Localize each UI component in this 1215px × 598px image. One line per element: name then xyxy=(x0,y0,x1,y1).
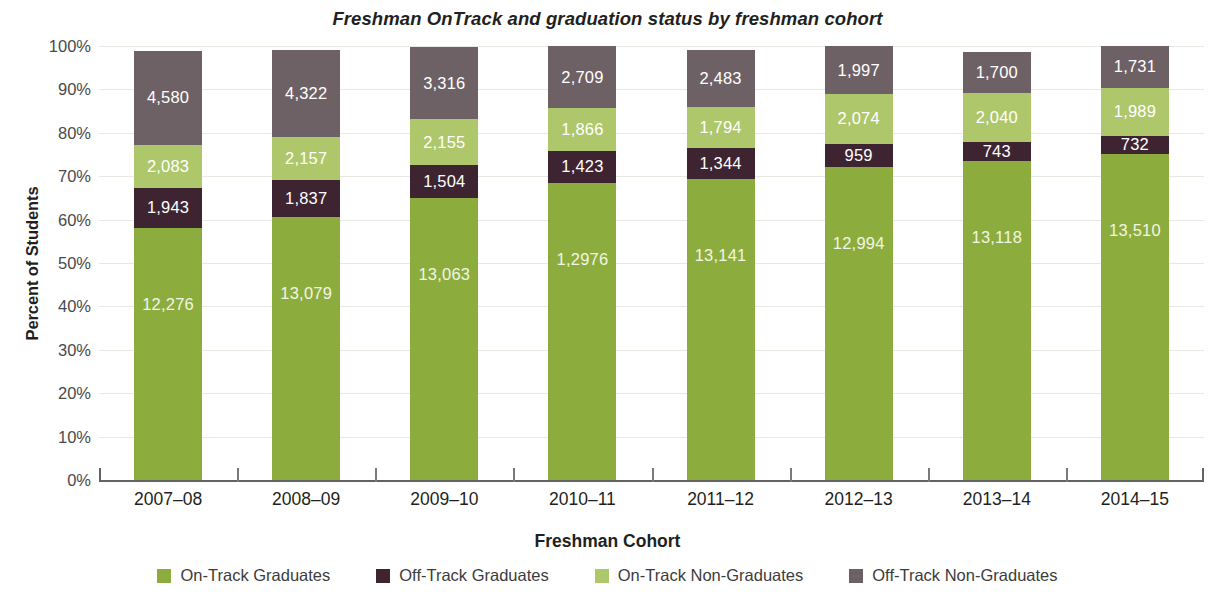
legend-item[interactable]: Off-Track Graduates xyxy=(376,566,548,585)
plot-area: 12,2761,9432,0834,58013,0791,8372,1574,3… xyxy=(99,46,1204,480)
bar-segment-value-label: 1,423 xyxy=(561,157,603,176)
gridline xyxy=(99,393,1204,394)
gridline xyxy=(99,176,1204,177)
y-tick-label: 30% xyxy=(21,340,91,359)
bar-segment[interactable]: 1,794 xyxy=(687,107,755,148)
y-tick-label: 70% xyxy=(21,167,91,186)
bar-segment-value-label: 4,322 xyxy=(285,84,327,103)
bar-segment[interactable]: 2,040 xyxy=(963,93,1031,142)
bar-segment[interactable]: 13,079 xyxy=(272,217,340,480)
bar-segment-value-label: 2,040 xyxy=(976,108,1018,127)
bar-segment-value-label: 2,709 xyxy=(561,68,603,87)
legend-swatch-icon xyxy=(157,569,171,583)
bar-segment-value-label: 13,141 xyxy=(695,246,747,265)
x-category-label: 2014–15 xyxy=(1101,489,1169,510)
bar-segment[interactable]: 2,483 xyxy=(687,50,755,107)
gridline xyxy=(99,220,1204,221)
bar-segment[interactable]: 732 xyxy=(1101,136,1169,154)
bar-segment[interactable]: 2,709 xyxy=(548,46,616,108)
bar-segment[interactable]: 1,423 xyxy=(548,151,616,184)
bar-segment[interactable]: 12,276 xyxy=(134,228,202,480)
bar-segment[interactable]: 3,316 xyxy=(410,47,478,119)
legend-swatch-icon xyxy=(595,569,609,583)
x-tick-mark xyxy=(790,468,792,482)
bar-segment[interactable]: 13,510 xyxy=(1101,154,1169,480)
y-tick-label: 60% xyxy=(21,210,91,229)
bar-segment-value-label: 1,700 xyxy=(976,63,1018,82)
legend-swatch-icon xyxy=(376,569,390,583)
bar-segment-value-label: 2,483 xyxy=(699,69,741,88)
bar-stack[interactable]: 12,9949592,0741,997 xyxy=(825,46,893,480)
bar-stack[interactable]: 1,29761,4231,8662,709 xyxy=(548,46,616,480)
bar-segment[interactable]: 1,943 xyxy=(134,188,202,228)
bar-stack[interactable]: 13,1411,3441,7942,483 xyxy=(687,46,755,480)
gridline xyxy=(99,306,1204,307)
bar-segment[interactable]: 2,074 xyxy=(825,94,893,144)
bar-stack[interactable]: 13,0791,8372,1574,322 xyxy=(272,46,340,480)
bar-segment[interactable]: 1,731 xyxy=(1101,46,1169,88)
legend-label: On-Track Graduates xyxy=(180,566,330,585)
bar-segment[interactable]: 2,157 xyxy=(272,137,340,180)
bar-segment-value-label: 1,2976 xyxy=(557,250,609,269)
legend-item[interactable]: Off-Track Non-Graduates xyxy=(849,566,1057,585)
bar-segment-value-label: 1,943 xyxy=(147,198,189,217)
y-tick-label: 20% xyxy=(21,384,91,403)
legend-label: Off-Track Non-Graduates xyxy=(872,566,1057,585)
bar-segment-value-label: 1,837 xyxy=(285,189,327,208)
y-tick-label: 90% xyxy=(21,80,91,99)
bar-segment[interactable]: 1,700 xyxy=(963,52,1031,93)
bar-segment[interactable]: 12,994 xyxy=(825,167,893,480)
bar-segment[interactable]: 13,141 xyxy=(687,179,755,480)
bar-segment[interactable]: 1,504 xyxy=(410,165,478,198)
bar-segment-value-label: 2,074 xyxy=(838,109,880,128)
x-tick-mark xyxy=(237,468,239,482)
bar-segment[interactable]: 4,322 xyxy=(272,50,340,137)
x-category-label: 2007–08 xyxy=(134,489,202,510)
legend-swatch-icon xyxy=(849,569,863,583)
bar-segment-value-label: 2,155 xyxy=(423,133,465,152)
bar-segment-value-label: 13,510 xyxy=(1109,221,1161,240)
x-tick-mark xyxy=(1066,468,1068,482)
bar-segment[interactable]: 1,344 xyxy=(687,148,755,179)
legend-label: Off-Track Graduates xyxy=(399,566,548,585)
gridline xyxy=(99,89,1204,90)
bar-stack[interactable]: 12,2761,9432,0834,580 xyxy=(134,46,202,480)
bar-stack[interactable]: 13,5107321,9891,731 xyxy=(1101,46,1169,480)
y-tick-label: 100% xyxy=(21,37,91,56)
bar-segment[interactable]: 13,063 xyxy=(410,198,478,480)
gridline xyxy=(99,46,1204,47)
bar-segment[interactable]: 13,118 xyxy=(963,161,1031,480)
y-tick-label: 80% xyxy=(21,123,91,142)
bar-segment-value-label: 2,157 xyxy=(285,149,327,168)
bar-segment-value-label: 12,994 xyxy=(833,234,885,253)
bar-segment[interactable]: 2,155 xyxy=(410,119,478,165)
x-tick-mark xyxy=(928,468,930,482)
bar-segment-value-label: 13,079 xyxy=(280,284,332,303)
y-tick-label: 40% xyxy=(21,297,91,316)
bar-segment[interactable]: 4,580 xyxy=(134,51,202,145)
x-tick-mark xyxy=(375,468,377,482)
bar-segment-value-label: 1,997 xyxy=(838,61,880,80)
bar-segment-value-label: 1,504 xyxy=(423,172,465,191)
x-category-label: 2010–11 xyxy=(549,489,616,510)
bar-stack[interactable]: 13,0631,5042,1553,316 xyxy=(410,46,478,480)
bar-segment[interactable]: 1,2976 xyxy=(548,183,616,480)
bar-segment-value-label: 732 xyxy=(1121,135,1149,154)
bar-segment-value-label: 1,794 xyxy=(699,118,741,137)
bar-segment[interactable]: 1,866 xyxy=(548,108,616,151)
bar-segment-value-label: 1,989 xyxy=(1114,102,1156,121)
bar-segment[interactable]: 1,989 xyxy=(1101,88,1169,136)
bar-stack[interactable]: 13,1187432,0401,700 xyxy=(963,46,1031,480)
legend-item[interactable]: On-Track Graduates xyxy=(157,566,330,585)
legend-item[interactable]: On-Track Non-Graduates xyxy=(595,566,804,585)
x-category-label: 2012–13 xyxy=(825,489,893,510)
bar-segment[interactable]: 2,083 xyxy=(134,145,202,188)
bar-segment[interactable]: 1,837 xyxy=(272,180,340,217)
bar-segment[interactable]: 1,997 xyxy=(825,46,893,94)
bar-segment-value-label: 1,866 xyxy=(561,120,603,139)
bar-segment-value-label: 959 xyxy=(845,146,873,165)
bar-segment-value-label: 1,731 xyxy=(1114,57,1156,76)
chart-container: Freshman OnTrack and graduation status b… xyxy=(0,0,1215,598)
bar-segment[interactable]: 959 xyxy=(825,144,893,167)
bar-segment[interactable]: 743 xyxy=(963,142,1031,160)
